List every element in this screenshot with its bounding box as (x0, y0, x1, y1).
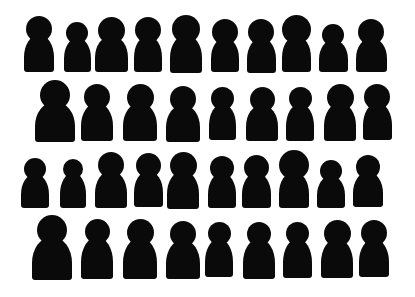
person-silhouette (166, 221, 200, 279)
person-silhouette (95, 152, 127, 208)
silhouette-head (282, 15, 311, 44)
silhouette-head (361, 220, 387, 246)
silhouette-head (324, 220, 351, 247)
person-silhouette (359, 220, 389, 277)
silhouette-head (279, 150, 309, 180)
person-silhouette (242, 155, 271, 208)
silhouette-head (26, 16, 52, 42)
person-silhouette (317, 160, 345, 208)
silhouette-head (247, 222, 271, 246)
silhouette-head (208, 222, 231, 245)
silhouette-head (244, 155, 269, 180)
silhouette-head (37, 215, 67, 245)
person-silhouette (32, 215, 72, 280)
person-silhouette (134, 153, 163, 207)
silhouette-head (85, 219, 110, 244)
person-silhouette (283, 222, 312, 278)
person-silhouette (208, 156, 236, 208)
person-silhouette (282, 15, 311, 72)
person-silhouette (166, 86, 200, 142)
person-silhouette (24, 16, 54, 72)
person-silhouette (35, 80, 75, 142)
person-silhouette (243, 222, 275, 279)
person-silhouette (319, 24, 348, 72)
silhouette-head (356, 155, 380, 179)
silhouette-head (248, 19, 274, 45)
silhouette-head (327, 84, 354, 111)
person-silhouette (353, 155, 383, 207)
silhouette-head (358, 19, 384, 45)
silhouette-head (66, 22, 88, 44)
silhouette-head (24, 158, 46, 180)
person-silhouette (123, 219, 157, 279)
person-silhouette (134, 17, 162, 72)
person-silhouette (324, 84, 356, 141)
person-silhouette (356, 19, 387, 72)
person-silhouette (21, 158, 49, 208)
person-silhouette (81, 219, 113, 279)
person-silhouette (81, 84, 113, 141)
silhouette-head (212, 19, 238, 45)
silhouette-head (136, 153, 161, 178)
silhouette-head (170, 221, 196, 247)
silhouette-head (98, 152, 124, 178)
silhouette-head (170, 152, 197, 179)
person-silhouette (286, 87, 314, 141)
person-silhouette (363, 84, 392, 140)
silhouette-head (320, 160, 342, 182)
silhouette-head (127, 219, 154, 246)
person-silhouette (64, 22, 91, 72)
silhouette-head (40, 80, 70, 110)
silhouette-head (127, 84, 154, 111)
silhouette-head (172, 15, 200, 43)
silhouette-head (135, 17, 161, 43)
silhouette-head (210, 156, 234, 180)
silhouette-head (286, 222, 309, 245)
person-silhouette (60, 159, 86, 208)
person-silhouette (247, 19, 276, 73)
silhouette-head (322, 24, 344, 46)
person-silhouette (209, 87, 236, 140)
silhouette-head (98, 17, 125, 44)
silhouette-head (289, 87, 312, 110)
person-silhouette (205, 222, 233, 277)
person-silhouette (167, 152, 199, 209)
person-silhouette (246, 87, 278, 141)
person-silhouette (211, 19, 239, 72)
silhouette-head (170, 86, 196, 112)
person-silhouette (123, 84, 157, 141)
silhouette-head (84, 84, 110, 110)
person-silhouette (321, 220, 353, 278)
person-silhouette (279, 150, 309, 208)
silhouette-head (211, 87, 234, 110)
person-silhouette (170, 15, 202, 73)
silhouette-head (250, 87, 275, 112)
silhouette-head (364, 84, 390, 110)
silhouette-head (63, 159, 83, 179)
person-silhouette (95, 17, 128, 72)
silhouette-scene (0, 0, 415, 297)
